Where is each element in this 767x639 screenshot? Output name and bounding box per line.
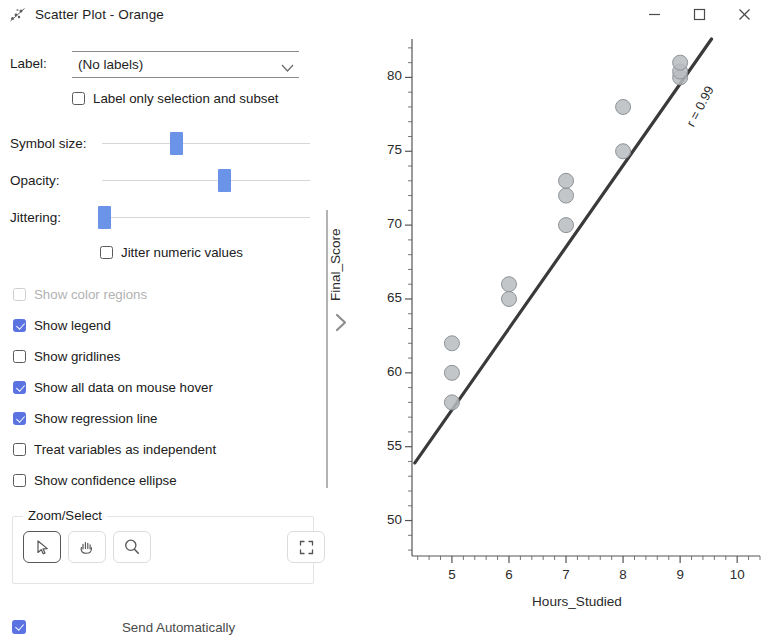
- send-automatically-label: Send Automatically: [122, 620, 235, 635]
- magnifier-icon: [123, 538, 141, 556]
- checkbox-label: Treat variables as independent: [34, 442, 216, 457]
- zoom-select-group: Zoom/Select: [12, 516, 314, 584]
- y-tick-label: 80: [376, 68, 402, 83]
- checkbox-label: Show all data on mouse hover: [34, 380, 213, 395]
- checkbox-label: Show confidence ellipse: [34, 473, 177, 488]
- treat-variables-as-independent-checkbox[interactable]: Treat variables as independent: [13, 442, 216, 457]
- data-point: [616, 99, 631, 114]
- x-axis-title: Hours_Studied: [532, 594, 622, 609]
- y-tick-label: 50: [376, 512, 402, 527]
- label-field-caption: Label:: [10, 56, 47, 71]
- send-automatically-row[interactable]: Send Automatically: [12, 615, 314, 639]
- label-select-value: (No labels): [72, 57, 143, 72]
- plot-svg: [350, 29, 767, 639]
- x-tick-label: 8: [613, 567, 633, 582]
- checkbox-label: Show regression line: [34, 411, 157, 426]
- x-tick-label: 7: [556, 567, 576, 582]
- show-legend-checkbox[interactable]: Show legend: [13, 318, 111, 333]
- show-gridlines-checkbox[interactable]: Show gridlines: [13, 349, 120, 364]
- symbol-size-track[interactable]: [102, 143, 310, 144]
- scatter-plot-window: Scatter Plot - Orange: [0, 0, 767, 639]
- checkbox-label: Label only selection and subset: [93, 91, 279, 106]
- close-button[interactable]: [722, 0, 767, 29]
- checkbox-label: Show gridlines: [34, 349, 120, 364]
- data-point: [559, 173, 574, 188]
- zoom-select-title: Zoom/Select: [23, 508, 107, 523]
- checkbox-box: [13, 443, 26, 456]
- show-all-data-on-mouse-hover-checkbox[interactable]: Show all data on mouse hover: [13, 380, 213, 395]
- select-arrow-tool[interactable]: [23, 531, 61, 563]
- pan-hand-tool[interactable]: [68, 531, 106, 563]
- data-point: [559, 188, 574, 203]
- y-tick-label: 65: [376, 290, 402, 305]
- zoom-magnifier-tool[interactable]: [113, 531, 151, 563]
- symbol-size-slider-row: Symbol size:: [10, 129, 316, 159]
- jittering-track[interactable]: [102, 217, 310, 218]
- checkbox-box: [13, 319, 26, 332]
- symbol-size-handle[interactable]: [170, 132, 183, 155]
- x-tick-label: 6: [499, 567, 519, 582]
- jittering-slider-row: Jittering:: [10, 203, 316, 233]
- data-point: [616, 144, 631, 159]
- label-only-selection-checkbox[interactable]: Label only selection and subset: [72, 91, 279, 106]
- maximize-button[interactable]: [677, 0, 722, 29]
- x-tick-label: 9: [670, 567, 690, 582]
- checkbox-box: [100, 246, 113, 259]
- y-axis-title: Final_Score: [328, 228, 343, 301]
- jittering-handle[interactable]: [98, 206, 111, 229]
- label-field-row: Label: (No labels): [10, 51, 316, 79]
- data-point: [501, 277, 516, 292]
- chevron-down-icon: [280, 59, 295, 77]
- cursor-arrow-icon: [34, 539, 51, 556]
- data-point: [501, 291, 516, 306]
- checkbox-box: [13, 474, 26, 487]
- checkbox-label: Show legend: [34, 318, 111, 333]
- send-automatically-checkbox[interactable]: [12, 620, 26, 634]
- checkbox-box: [13, 350, 26, 363]
- opacity-handle[interactable]: [218, 169, 231, 192]
- checkbox-box: [13, 288, 26, 301]
- data-point: [444, 395, 459, 410]
- y-tick-label: 70: [376, 216, 402, 231]
- data-point: [559, 218, 574, 233]
- minimize-button[interactable]: [632, 0, 677, 29]
- data-point: [673, 55, 688, 70]
- scatter-plot-icon: [9, 6, 26, 23]
- y-tick-label: 60: [376, 364, 402, 379]
- opacity-track[interactable]: [102, 180, 310, 181]
- jitter-numeric-values-checkbox[interactable]: Jitter numeric values: [100, 245, 243, 260]
- checkbox-box: [72, 92, 85, 105]
- y-tick-label: 55: [376, 438, 402, 453]
- y-tick-label: 75: [376, 142, 402, 157]
- control-panel: Label: (No labels) Label only selection …: [0, 29, 325, 639]
- show-confidence-ellipse-checkbox[interactable]: Show confidence ellipse: [13, 473, 177, 488]
- jittering-label: Jittering:: [10, 210, 61, 225]
- checkbox-label: Jitter numeric values: [121, 245, 243, 260]
- window-title: Scatter Plot - Orange: [35, 7, 164, 22]
- opacity-slider-row: Opacity:: [10, 166, 316, 196]
- data-point: [444, 336, 459, 351]
- fit-to-window-icon: [298, 539, 315, 556]
- x-tick-label: 10: [727, 567, 747, 582]
- checkbox-box: [13, 381, 26, 394]
- show-color-regions-checkbox[interactable]: Show color regions: [13, 287, 147, 302]
- checkbox-label: Show color regions: [34, 287, 147, 302]
- show-regression-line-checkbox[interactable]: Show regression line: [13, 411, 157, 426]
- label-select[interactable]: (No labels): [72, 51, 299, 78]
- opacity-label: Opacity:: [10, 173, 60, 188]
- title-bar: Scatter Plot - Orange: [0, 0, 767, 29]
- reset-zoom-button[interactable]: [287, 531, 325, 563]
- data-point: [444, 365, 459, 380]
- symbol-size-label: Symbol size:: [10, 136, 87, 151]
- regression-line: [415, 39, 712, 463]
- hand-icon: [78, 538, 96, 556]
- scatter-plot-canvas[interactable]: Hours_Studied Final_Score 50556065707580…: [350, 29, 767, 639]
- chevron-right-icon[interactable]: [335, 313, 348, 332]
- window-controls: [632, 0, 767, 29]
- x-tick-label: 5: [442, 567, 462, 582]
- checkbox-box: [13, 412, 26, 425]
